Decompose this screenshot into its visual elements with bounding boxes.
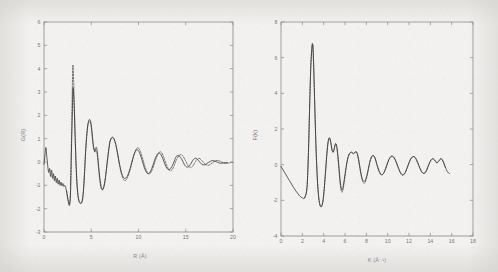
y-tick-label: 8 — [275, 19, 278, 25]
y-tick-label: -1 — [36, 182, 41, 188]
x-tick-label: 5 — [90, 234, 93, 240]
left-plot-svg: 05101520-3-2-10123456 G(R) R (Å) — [0, 0, 249, 272]
x-tick-label: 18 — [470, 238, 476, 244]
left-experimental-curve — [44, 88, 227, 206]
y-tick-label: 3 — [38, 89, 41, 95]
y-tick-label: 0 — [38, 159, 41, 165]
y-tick-label: 6 — [275, 55, 278, 61]
right-curves — [281, 43, 450, 207]
left-curves — [44, 65, 233, 206]
left-panel: 05101520-3-2-10123456 G(R) R (Å) — [0, 0, 249, 272]
y-tick-label: 6 — [38, 19, 41, 25]
y-tick-label: 2 — [38, 112, 41, 118]
x-tick-label: 8 — [365, 238, 368, 244]
x-tick-label: 10 — [385, 238, 391, 244]
right-experimental-curve — [281, 43, 450, 206]
right-axes: 024681012141618-4-202468 — [273, 19, 476, 244]
left-axes: 05101520-3-2-10123456 — [36, 19, 236, 240]
y-tick-label: 4 — [275, 90, 278, 96]
y-tick-label: -2 — [36, 206, 41, 212]
x-tick-label: 0 — [43, 234, 46, 240]
y-tick-label: 2 — [275, 126, 278, 132]
y-tick-label: -4 — [273, 233, 278, 239]
y-tick-label: 0 — [275, 162, 278, 168]
plot-frame — [281, 22, 473, 236]
left-y-axis-title: G(R) — [20, 129, 26, 141]
right-panel: 024681012141618-4-202468 F(k) K (Å⁻¹) — [249, 0, 498, 272]
y-tick-label: 1 — [38, 136, 41, 142]
exafs-figure: 05101520-3-2-10123456 G(R) R (Å) 0246810… — [0, 0, 498, 272]
x-tick-label: 0 — [280, 238, 283, 244]
x-tick-label: 15 — [183, 234, 189, 240]
right-theoretical-curve — [304, 45, 445, 207]
x-tick-label: 6 — [344, 238, 347, 244]
y-tick-label: -2 — [273, 197, 278, 203]
left-theoretical-curve — [67, 65, 233, 204]
right-x-axis-title: K (Å⁻¹) — [368, 257, 386, 263]
right-y-axis-title: F(k) — [252, 130, 258, 140]
x-tick-label: 16 — [449, 238, 455, 244]
x-tick-label: 20 — [230, 234, 236, 240]
x-tick-label: 12 — [406, 238, 412, 244]
y-tick-label: 4 — [38, 66, 41, 72]
x-tick-label: 4 — [322, 238, 325, 244]
left-x-axis-title: R (Å) — [133, 253, 147, 259]
y-tick-label: 5 — [38, 42, 41, 48]
x-tick-label: 10 — [136, 234, 142, 240]
x-tick-label: 14 — [427, 238, 433, 244]
x-tick-label: 2 — [301, 238, 304, 244]
y-tick-label: -3 — [36, 229, 41, 235]
right-plot-svg: 024681012141618-4-202468 F(k) K (Å⁻¹) — [249, 0, 498, 272]
